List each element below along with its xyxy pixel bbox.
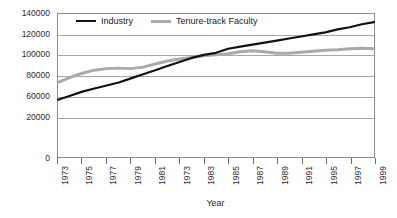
legend-entry-industry: Industry [76,16,133,26]
x-tick-label: 1997 [354,166,363,185]
x-tick-label: 1987 [256,166,265,185]
x-tick-mark [277,158,278,164]
x-axis-ticks [57,158,375,165]
x-tick-mark [130,158,131,164]
y-tick-label: 100000 [22,50,50,59]
y-tick-label: 0 [45,154,50,163]
x-tick-mark [228,158,229,164]
x-tick-label: 1985 [232,166,241,185]
x-tick-label: 1977 [109,166,118,185]
x-tick-label: 1973 [61,166,70,185]
x-tick-mark [106,158,107,164]
x-axis: 1973197519771979198119731983198519871989… [57,166,375,196]
x-tick-mark [204,158,205,164]
x-tick-label: 1991 [305,166,314,185]
y-axis: 1400001200001000008000060000200000 [0,13,54,158]
line-chart-figure: 1400001200001000008000060000200000 Indus… [0,0,397,218]
series-layer [58,14,374,157]
y-tick-label: 120000 [22,29,50,38]
x-tick-mark [155,158,156,164]
x-tick-label: 1973 [183,166,192,185]
y-tick-label: 60000 [26,92,50,101]
x-tick-label: 1989 [281,166,290,185]
y-tick-label: 80000 [26,71,50,80]
legend: Industry Tenure-track Faculty [76,16,258,26]
plot-area [57,13,375,158]
legend-line-icon-tenure-track-faculty [151,20,171,23]
x-tick-mark [253,158,254,164]
x-tick-mark [57,158,58,164]
legend-label-industry: Industry [101,16,133,26]
legend-label-tenure-track-faculty: Tenure-track Faculty [176,16,258,26]
x-tick-label: 1999 [379,166,388,185]
x-tick-mark [375,158,376,164]
x-tick-mark [179,158,180,164]
x-axis-title: Year [0,198,397,208]
x-tick-mark [81,158,82,164]
series-line-industry [58,22,374,100]
x-tick-label: 1983 [207,166,216,185]
y-tick-label: 20000 [26,112,50,121]
x-tick-mark [326,158,327,164]
legend-entry-tenure-track-faculty: Tenure-track Faculty [151,16,258,26]
x-tick-mark [302,158,303,164]
x-tick-label: 1981 [158,166,167,185]
x-tick-label: 1979 [134,166,143,185]
x-tick-label: 1995 [330,166,339,185]
legend-line-icon-industry [76,20,96,22]
x-tick-label: 1975 [85,166,94,185]
y-tick-label: 140000 [22,9,50,18]
x-tick-mark [351,158,352,164]
